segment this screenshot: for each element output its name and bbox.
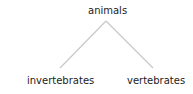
node-vertebrates: vertebrates [127,75,185,87]
node-animals: animals [88,5,127,17]
node-invertebrates: invertebrates [27,75,94,87]
edge-animals-vertebrates [106,21,153,68]
edge-animals-invertebrates [60,21,106,68]
